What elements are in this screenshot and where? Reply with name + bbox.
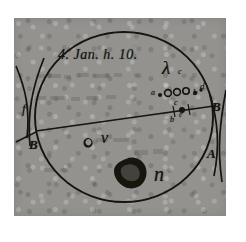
sunspot-o3	[183, 88, 189, 94]
large-spot-label-n: n	[154, 164, 164, 184]
observation-date-label: 4. Jan. h. 10.	[58, 48, 138, 62]
figure-root: 4. Jan. h. 10. λ c a c b d e b ν n B f B…	[0, 0, 246, 242]
interior-label-epsilon: ν	[101, 130, 108, 146]
axis-spot-sub-label-b: b	[170, 116, 174, 124]
axis-spot-label-e: e	[179, 111, 183, 119]
left-limb-mark-f: f	[22, 102, 26, 115]
left-limb-label-b: B	[29, 138, 38, 151]
spot-row-first-label: a	[151, 89, 155, 97]
spot-label-d: d	[200, 82, 205, 91]
right-limb-upper-label-b: B	[212, 100, 221, 113]
spot-row-sub-label: c	[174, 99, 178, 107]
lambda-subscript-label: c	[178, 68, 182, 76]
sunspot-o2	[174, 89, 181, 96]
lambda-symbol-label: λ	[162, 58, 170, 77]
sunspot-a	[158, 93, 162, 97]
spot-label-b: b	[193, 88, 198, 97]
diameter-axis-line	[36, 106, 214, 131]
sunspot-epsilon	[83, 138, 92, 148]
right-limb-lower-label-a: A	[207, 147, 216, 160]
scanned-paper-surface: 4. Jan. h. 10. λ c a c b d e b ν n B f B…	[14, 18, 226, 216]
sunspot-o1	[165, 90, 172, 97]
